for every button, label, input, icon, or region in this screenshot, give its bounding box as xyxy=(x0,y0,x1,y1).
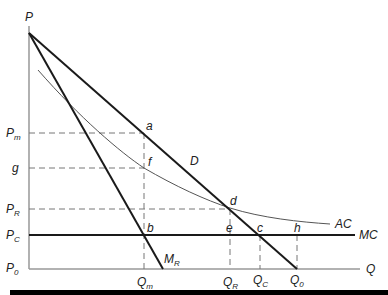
point-d: d xyxy=(230,194,237,208)
bottom-rule xyxy=(10,290,388,295)
label-pr: PR xyxy=(6,202,20,218)
point-e: e xyxy=(226,221,233,235)
label-pc: PC xyxy=(6,228,20,244)
mr-curve xyxy=(29,33,163,269)
label-qr: QR xyxy=(223,275,238,291)
quantity-axis-label: Q xyxy=(366,262,375,276)
point-h: h xyxy=(294,221,301,235)
dashed-guides xyxy=(29,133,297,269)
label-qc: QC xyxy=(253,273,268,289)
label-p0: P0 xyxy=(6,261,19,277)
label-mc: MC xyxy=(359,228,378,242)
point-f: f xyxy=(148,155,153,169)
label-ac: AC xyxy=(334,217,352,231)
point-a: a xyxy=(146,119,153,133)
label-q0: Q0 xyxy=(290,273,304,289)
label-g: g xyxy=(12,161,19,175)
label-qm: Qm xyxy=(137,275,153,291)
point-c: c xyxy=(257,221,263,235)
ac-curve xyxy=(38,70,330,224)
price-axis-label: P xyxy=(25,10,33,24)
monopoly-diagram: P Q Pm g PR PC P0 Qm QR QC Q0 D MR AC MC… xyxy=(0,0,388,295)
label-pm: Pm xyxy=(6,126,21,142)
label-demand: D xyxy=(190,154,199,168)
point-b: b xyxy=(147,221,154,235)
label-mr: MR xyxy=(164,252,180,268)
